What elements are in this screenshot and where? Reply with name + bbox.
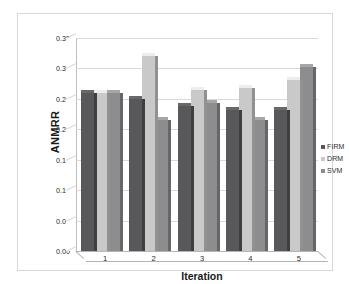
floor-top-line (76, 251, 318, 252)
legend-item-drm: DRM (321, 153, 345, 164)
bar-side-face (252, 88, 255, 251)
x-tick-label: 3 (182, 254, 222, 263)
bar-side-face (287, 110, 290, 251)
bar-group (129, 38, 168, 251)
bar-top-cap (129, 96, 142, 99)
legend-label: DRM (327, 155, 343, 162)
bar-side-face (120, 93, 123, 251)
bar-top-cap (178, 103, 191, 106)
x-axis-tick-labels: 12345 (76, 254, 328, 268)
bar-side-face (265, 120, 268, 251)
bar-face (81, 93, 94, 251)
legend-swatch-icon (321, 145, 325, 149)
bar-face (178, 106, 191, 251)
bar-group (274, 38, 313, 251)
bar-face (274, 110, 287, 251)
bar-firm-5 (274, 110, 287, 251)
bar-firm-1 (81, 93, 94, 251)
bar-side-face (107, 93, 110, 251)
legend-swatch-icon (321, 157, 325, 161)
bar-side-face (300, 80, 303, 251)
bar-top-cap (226, 107, 239, 110)
x-tick-label: 1 (85, 254, 125, 263)
legend-swatch-icon (321, 169, 325, 173)
bar-top-cap (274, 107, 287, 110)
bar-group (178, 38, 217, 251)
bar-face (129, 99, 142, 251)
bar-firm-4 (226, 110, 239, 251)
bar-top-cap (142, 53, 155, 56)
bar-top-cap (191, 87, 204, 90)
bar-side-face (239, 110, 242, 251)
x-axis-title: Iteration (76, 270, 328, 282)
bar-firm-3 (178, 106, 191, 251)
chart-legend: FIRMDRMSVM (321, 141, 345, 177)
bar-side-face (217, 103, 220, 251)
legend-label: FIRM (327, 143, 345, 150)
plot-area (76, 38, 318, 251)
chart-frame: ANMRR 0.000.050.100.150.200.250.300.35 1… (17, 13, 333, 271)
legend-item-svm: SVM (321, 165, 345, 176)
bar-side-face (168, 120, 171, 251)
bar-side-face (155, 56, 158, 251)
bar-firm-2 (129, 99, 142, 251)
legend-label: SVM (327, 167, 342, 174)
bar-top-cap (81, 90, 94, 93)
bar-group (226, 38, 265, 251)
bar-side-face (313, 67, 316, 251)
legend-item-firm: FIRM (321, 141, 345, 152)
bar-side-face (191, 106, 194, 251)
chart-figure: ANMRR 0.000.050.100.150.200.250.300.35 1… (0, 0, 349, 284)
x-tick-label: 2 (134, 254, 174, 263)
bar-top-cap (287, 77, 300, 80)
bar-side-face (94, 93, 97, 251)
x-tick-label: 5 (279, 254, 319, 263)
bar-face (226, 110, 239, 251)
bar-group (81, 38, 120, 251)
bar-side-face (142, 99, 145, 251)
bar-side-face (204, 90, 207, 251)
bar-top-cap (239, 85, 252, 88)
bar-top-cap (300, 64, 313, 67)
x-tick-label: 4 (230, 254, 270, 263)
